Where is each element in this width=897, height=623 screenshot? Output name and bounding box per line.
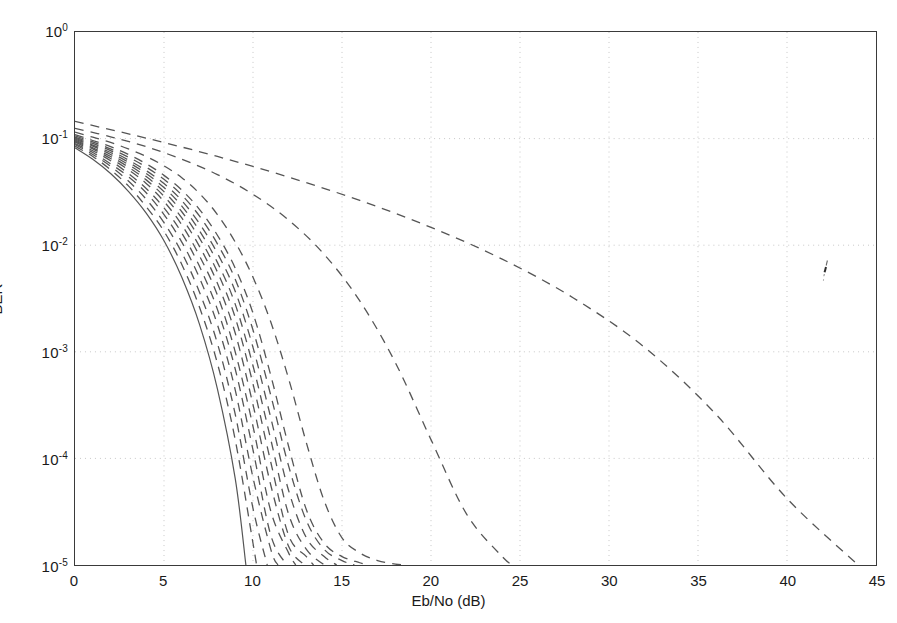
y-tick-label: 10-1 [0,129,68,147]
x-tick-label: 10 [244,572,261,589]
x-tick-label: 5 [159,572,167,589]
ber-curve [75,142,287,565]
ber-figure: BER Eb/No (dB) 10010-110-210-310-410-5 0… [0,0,897,623]
ber-curve [75,136,354,565]
ber-curve [75,137,337,565]
ber-curve [75,146,257,565]
y-tick-label: 10-4 [0,450,68,468]
y-tick-label: 100 [0,22,68,40]
ber-curve [75,121,858,565]
x-tick-label: 20 [423,572,440,589]
plot-area [74,31,877,566]
y-tick-label: 10-3 [0,343,68,361]
y-tick-label: 10-5 [0,557,68,575]
y-tick-label: 10-2 [0,236,68,254]
ber-curve [75,139,314,565]
x-tick-label: 25 [512,572,529,589]
scan-artifact-icon [822,258,832,284]
ber-curve [75,138,324,565]
ber-curve [75,148,246,565]
x-tick-label: 45 [869,572,886,589]
x-tick-label: 30 [601,572,618,589]
ber-curve [75,143,278,565]
ber-curves [75,32,876,565]
ber-curve [75,135,367,565]
x-tick-label: 15 [333,572,350,589]
x-tick-label: 0 [70,572,78,589]
x-tick-label: 35 [690,572,707,589]
y-axis-title: BER [0,284,5,315]
x-axis-title: Eb/No (dB) [0,592,897,609]
x-tick-label: 40 [779,572,796,589]
ber-curve [75,132,408,565]
